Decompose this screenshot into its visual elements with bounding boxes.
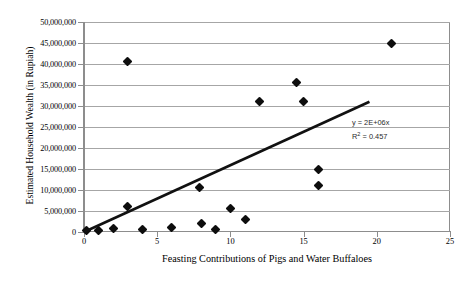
y-axis-tick [78, 148, 84, 149]
y-axis-tick-label: 20,000,000 [4, 144, 76, 153]
y-axis-tick [78, 211, 84, 212]
y-axis-tick-label: 0 [4, 228, 76, 237]
y-axis-tick [78, 106, 84, 107]
y-axis-tick [78, 64, 84, 65]
gridline-horizontal [84, 85, 450, 86]
gridline-horizontal [84, 211, 450, 212]
x-axis-title: Feasting Contributions of Pigs and Water… [84, 253, 450, 264]
x-axis-tick-label: 20 [362, 237, 392, 247]
y-axis-tick-label: 25,000,000 [4, 123, 76, 132]
y-axis-tick-label: 50,000,000 [4, 18, 76, 27]
y-axis-tick-label: 15,000,000 [4, 165, 76, 174]
x-axis-tick-label: 0 [69, 237, 99, 247]
scatter-chart: 05,000,00010,000,00015,000,00020,000,000… [0, 0, 466, 284]
y-axis-title: Estimated Household Wealth (in Rupiah) [24, 31, 35, 221]
y-axis-tick [78, 127, 84, 128]
gridline-horizontal [84, 190, 450, 191]
gridline-horizontal [84, 169, 450, 170]
y-axis-tick-label: 35,000,000 [4, 81, 76, 90]
y-axis-tick [78, 43, 84, 44]
x-axis-tick-label: 25 [435, 237, 465, 247]
r-squared-number: = 0.457 [360, 132, 387, 141]
y-axis-tick [78, 169, 84, 170]
regression-annotation: y = 2E+06x R2 = 0.457 [352, 118, 426, 142]
y-axis-tick [78, 190, 84, 191]
r-squared-value: R2 = 0.457 [352, 129, 426, 143]
y-axis-tick [78, 85, 84, 86]
y-axis-tick-label: 40,000,000 [4, 60, 76, 69]
gridline-horizontal [84, 64, 450, 65]
x-axis-tick-label: 10 [215, 237, 245, 247]
gridline-horizontal [84, 106, 450, 107]
y-axis-tick-label: 10,000,000 [4, 186, 76, 195]
x-axis-tick-label: 15 [289, 237, 319, 247]
regression-equation: y = 2E+06x [352, 118, 426, 129]
gridline-horizontal [84, 22, 450, 23]
y-axis-tick [78, 22, 84, 23]
y-axis-tick-label: 45,000,000 [4, 39, 76, 48]
x-axis-tick-label: 5 [142, 237, 172, 247]
y-axis-tick-label: 30,000,000 [4, 102, 76, 111]
y-axis-tick-label: 5,000,000 [4, 207, 76, 216]
gridline-horizontal [84, 148, 450, 149]
